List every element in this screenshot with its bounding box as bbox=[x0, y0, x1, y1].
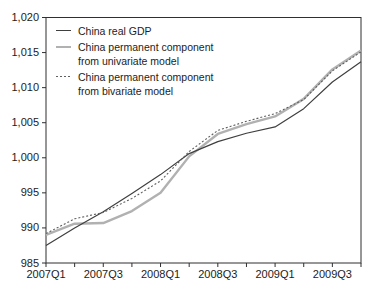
chart-legend: China real GDPChina permanent component … bbox=[56, 24, 224, 98]
x-tick-label: 2009Q3 bbox=[313, 268, 352, 280]
x-tick-label: 2007Q1 bbox=[26, 268, 65, 280]
y-tick-label: 995 bbox=[21, 186, 39, 198]
legend-label: China permanent component from bivariate… bbox=[78, 70, 224, 98]
y-tick-label: 985 bbox=[21, 257, 39, 269]
legend-item: China permanent component from univariat… bbox=[56, 40, 224, 68]
x-tick-label: 2008Q3 bbox=[198, 268, 237, 280]
y-tick-label: 1,015 bbox=[11, 46, 39, 58]
y-tick-label: 1,005 bbox=[11, 116, 39, 128]
legend-item: China permanent component from bivariate… bbox=[56, 70, 224, 98]
y-tick-label: 990 bbox=[21, 221, 39, 233]
legend-line-swatch-icon bbox=[56, 30, 71, 31]
y-tick-label: 1,020 bbox=[11, 11, 39, 23]
y-tick-label: 1,010 bbox=[11, 81, 39, 93]
legend-label: China real GDP bbox=[78, 24, 152, 38]
china-gdp-line-chart: 9859909951,0001,0051,0101,0151,0202007Q1… bbox=[0, 0, 376, 297]
legend-dashed-line-swatch-icon bbox=[56, 76, 71, 77]
x-tick-label: 2009Q1 bbox=[256, 268, 295, 280]
x-tick-label: 2008Q1 bbox=[141, 268, 180, 280]
x-tick-label: 2007Q3 bbox=[84, 268, 123, 280]
legend-item: China real GDP bbox=[56, 24, 224, 38]
legend-label: China permanent component from univariat… bbox=[78, 40, 224, 68]
y-tick-label: 1,000 bbox=[11, 151, 39, 163]
legend-line-swatch-icon bbox=[56, 46, 71, 48]
